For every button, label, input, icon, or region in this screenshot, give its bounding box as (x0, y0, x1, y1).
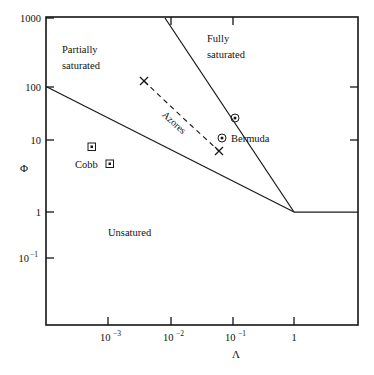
region-unsaturated-line1: Unsatured (108, 227, 152, 238)
azores-dashed-line (144, 81, 219, 151)
cobb-marker-2 (106, 160, 114, 168)
azores-marker-1 (140, 77, 148, 85)
x-axis-tick-labels: 10 −3 10 −2 10 −1 1 (100, 329, 297, 343)
x-axis-ticks (108, 317, 294, 325)
y-tick-exponent-0.1: −1 (30, 250, 38, 259)
y-axis-title: Φ (20, 162, 28, 174)
upper-boundary-line (165, 18, 294, 212)
region-fully-saturated-line2: saturated (207, 49, 246, 60)
x-tick-label-1e-3: 10 (100, 332, 111, 343)
x-tick-label-1e-2-group: 10 −2 (163, 329, 184, 343)
azores-series-label: Azores (160, 109, 188, 136)
chart-canvas: 1000 100 10 1 10 −1 Φ (0, 0, 374, 375)
cobb-points-group: Cobb (75, 143, 114, 170)
x-tick-label-1e-3-group: 10 −3 (100, 329, 121, 343)
x-tick-label-1e-1: 10 (225, 332, 236, 343)
top-axis-ticks (171, 17, 233, 25)
x-axis-title: Λ (232, 348, 240, 360)
region-fully-saturated: Fully saturated (207, 33, 246, 60)
right-axis-ticks (350, 87, 358, 140)
azores-marker-2 (215, 147, 223, 155)
x-tick-label-1: 1 (291, 332, 296, 343)
y-tick-label-0.1: 10 (19, 253, 30, 264)
region-partially-saturated-line2: saturated (62, 60, 101, 71)
cobb-label: Cobb (75, 159, 98, 170)
bermuda-label: Bermuda (231, 133, 270, 144)
region-partially-saturated: Partially saturated (62, 44, 101, 71)
region-fully-saturated-line1: Fully (207, 33, 230, 44)
x-tick-exponent-1e-2: −2 (176, 329, 184, 338)
x-tick-exponent-1e-3: −3 (113, 329, 121, 338)
bermuda-marker-2 (218, 134, 226, 142)
y-tick-label-10: 10 (31, 135, 42, 146)
y-axis-tick-labels: 1000 100 10 1 10 −1 (19, 13, 42, 264)
y-tick-label-0.1-group: 10 −1 (19, 250, 39, 264)
region-partially-saturated-line1: Partially (62, 44, 98, 55)
azores-series: Azores (140, 77, 223, 155)
x-tick-exponent-1e-1: −1 (238, 329, 246, 338)
x-tick-label-1e-2: 10 (163, 332, 174, 343)
y-tick-label-1000: 1000 (20, 13, 41, 24)
x-tick-label-1e-1-group: 10 −1 (225, 329, 246, 343)
y-axis-ticks (46, 18, 54, 258)
y-tick-label-1: 1 (36, 207, 41, 218)
region-unsaturated: Unsatured (108, 227, 152, 238)
bermuda-points-group: Bermuda (218, 114, 270, 144)
phase-diagram-figure: 1000 100 10 1 10 −1 Φ (0, 0, 374, 375)
y-tick-label-100: 100 (25, 82, 41, 93)
cobb-marker-1 (88, 143, 96, 151)
